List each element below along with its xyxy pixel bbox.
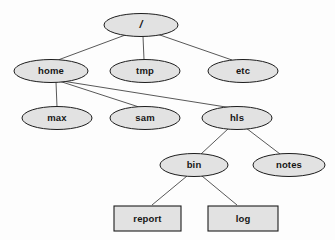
node-log[interactable]: log (208, 206, 278, 231)
node-home[interactable]: home (14, 60, 88, 83)
node-hls-label: hls (230, 112, 244, 123)
node-sam[interactable]: sam (110, 107, 180, 130)
edge-bin-log (202, 176, 237, 205)
node-max-label: max (47, 112, 67, 123)
edge-root-etc (157, 34, 232, 60)
node-hls[interactable]: hls (202, 107, 272, 130)
node-notes[interactable]: notes (253, 154, 325, 177)
node-etc[interactable]: etc (208, 60, 278, 83)
node-report-label: report (133, 213, 162, 224)
node-log-label: log (236, 213, 251, 224)
edge-root-tmp (143, 37, 144, 60)
edge-home-hls (59, 81, 229, 108)
edge-hls-bin (201, 128, 229, 154)
node-report[interactable]: report (114, 206, 181, 231)
node-notes-label: notes (276, 159, 302, 170)
edge-home-sam (59, 81, 139, 107)
node-root[interactable]: / (104, 14, 178, 37)
node-sam-label: sam (135, 112, 154, 123)
node-etc-label: etc (236, 65, 250, 76)
node-bin[interactable]: bin (160, 154, 228, 177)
tree-canvas: / home tmp etc max sam hls (0, 0, 335, 240)
edge-root-home (58, 34, 128, 60)
node-tmp[interactable]: tmp (110, 60, 180, 83)
node-tmp-label: tmp (136, 65, 154, 76)
node-home-label: home (38, 65, 64, 76)
node-max[interactable]: max (22, 107, 92, 130)
edge-hls-notes (246, 128, 280, 154)
directory-tree-diagram: / home tmp etc max sam hls (0, 0, 335, 240)
edge-home-max (56, 82, 57, 107)
node-bin-label: bin (187, 159, 202, 170)
edge-bin-report (152, 176, 187, 205)
